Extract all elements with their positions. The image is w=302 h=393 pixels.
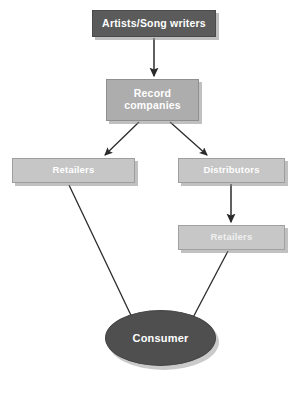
node-label: Artists/Song writers [102, 18, 206, 30]
edge-retailers-left-to-consumer [69, 185, 137, 328]
node-label: Retailers [53, 165, 95, 176]
node-retailers-left[interactable]: Retailers [12, 158, 135, 183]
node-artists-song-writers[interactable]: Artists/Song writers [92, 10, 216, 37]
edge-record-to-retailers-left [105, 122, 139, 155]
node-label: Record companies [124, 88, 181, 112]
edge-record-to-distributors [170, 122, 207, 155]
node-distributors[interactable]: Distributors [178, 158, 285, 183]
node-label: Consumer [133, 332, 189, 344]
diagram-canvas: Artists/Song writers Record companies Re… [0, 0, 302, 393]
node-consumer[interactable]: Consumer [105, 310, 216, 366]
node-retailers-right[interactable]: Retailers [178, 225, 285, 250]
node-label: Retailers [211, 232, 253, 243]
node-label: Distributors [203, 165, 259, 176]
node-record-companies[interactable]: Record companies [106, 79, 199, 121]
node-label-line2: companies [124, 99, 181, 111]
node-label-line1: Record [134, 87, 171, 99]
